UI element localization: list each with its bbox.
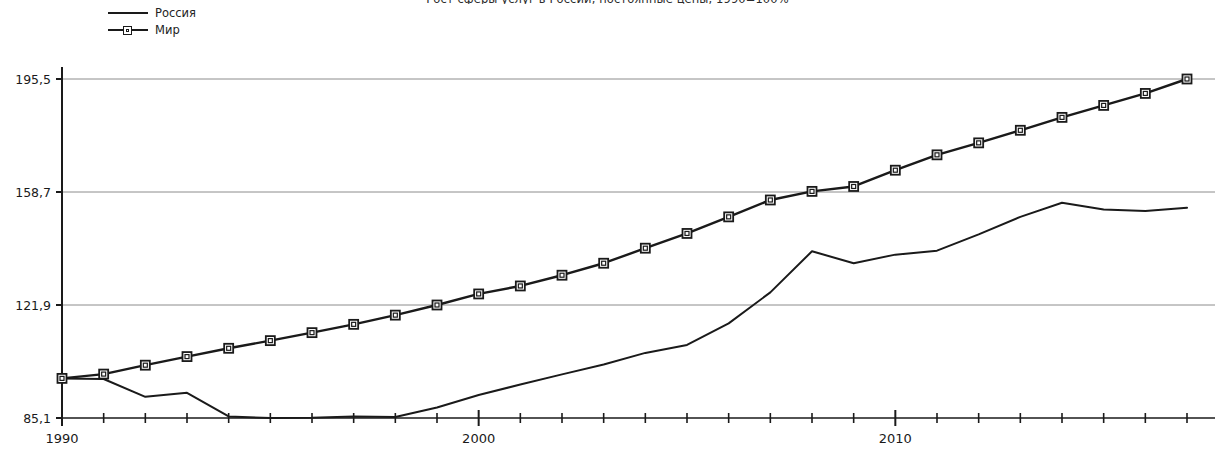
chart-plot-area: 85,1121,9158,7195,5 199020002010 [0, 0, 1215, 453]
x-axis-tick-label: 1990 [45, 431, 78, 446]
chart-container: Рост сферы услуг в России, постоянные це… [0, 0, 1215, 453]
x-axis-tick-label: 2010 [879, 431, 912, 446]
x-axis-tick-label: 2000 [462, 431, 495, 446]
x-axis-tick-labels: 199020002010 [45, 431, 911, 446]
y-axis-tick-label: 85,1 [23, 411, 51, 426]
data-series-group [58, 75, 1192, 419]
y-axis-tick-labels: 85,1121,9158,7195,5 [15, 72, 51, 426]
y-axis-tick-label: 195,5 [15, 72, 51, 87]
axis-lines [62, 67, 1215, 418]
y-axis-tick-label: 121,9 [15, 298, 51, 313]
gridlines [62, 79, 1215, 305]
y-axis-tick-label: 158,7 [15, 185, 51, 200]
